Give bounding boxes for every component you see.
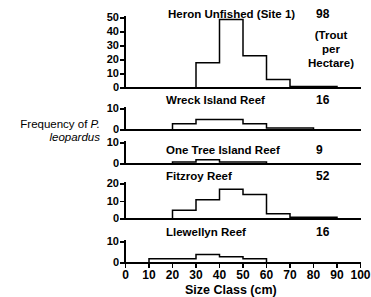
ytick-label-3-10: 10 <box>99 196 119 207</box>
ytick-label-0-10: 10 <box>99 68 119 79</box>
ytick-label-4-0: 0 <box>99 257 119 268</box>
panel-title-4: Llewellyn Reef <box>166 226 246 238</box>
panel-density-1: 16 <box>316 94 329 106</box>
ytick-label-3-20: 20 <box>99 178 119 189</box>
y-axis-label-line2: leopardus <box>4 131 100 144</box>
histogram-outline-4 <box>126 255 361 263</box>
y-axis-label: Frequency of P.leopardus <box>4 118 100 144</box>
ytick-label-1-0: 0 <box>99 124 119 135</box>
panel-title-3: Fitzroy Reef <box>166 170 232 182</box>
density-units-note-line-1: per <box>296 42 366 56</box>
panel-density-2: 9 <box>316 144 323 156</box>
panel-title-0: Heron Unfished (Site 1) <box>168 8 295 20</box>
histogram-outline-3 <box>126 189 361 219</box>
ytick-label-0-30: 30 <box>99 40 119 51</box>
ytick-label-4-10: 10 <box>99 236 119 247</box>
y-axis-label-line1: Frequency of P. <box>4 118 100 131</box>
panel-density-0: 98 <box>316 8 329 20</box>
ytick-label-1-10: 10 <box>99 103 119 114</box>
ytick-label-3-0: 0 <box>99 213 119 224</box>
density-units-note: (TroutperHectare) <box>296 28 366 70</box>
density-units-note-line-0: (Trout <box>296 28 366 42</box>
x-axis-title: Size Class (cm) <box>185 284 277 297</box>
panel-density-4: 16 <box>316 226 329 238</box>
ytick-label-0-20: 20 <box>99 54 119 65</box>
density-units-note-line-2: Hectare) <box>296 56 366 70</box>
xtick-label-100: 100 <box>347 269 371 281</box>
panel-title-2: One Tree Island Reef <box>166 144 280 156</box>
histogram-outline-1 <box>126 120 361 131</box>
ytick-label-0-50: 50 <box>99 12 119 23</box>
ytick-label-2-0: 0 <box>99 158 119 169</box>
panel-title-1: Wreck Island Reef <box>166 94 265 106</box>
ytick-label-0-0: 0 <box>99 82 119 93</box>
panel-density-3: 52 <box>316 170 329 182</box>
ytick-label-0-40: 40 <box>99 26 119 37</box>
y-axis-label-genus: P. <box>91 118 100 130</box>
ytick-label-2-10: 10 <box>99 137 119 148</box>
